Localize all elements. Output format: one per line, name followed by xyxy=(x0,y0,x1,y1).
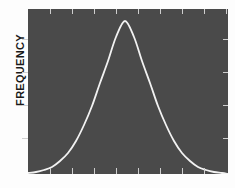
top-tick xyxy=(50,9,51,14)
top-tick xyxy=(72,9,73,14)
bottom-tick xyxy=(160,168,161,174)
right-tick xyxy=(223,72,228,73)
bottom-tick xyxy=(50,168,51,174)
top-tick xyxy=(226,9,227,14)
chart-figure: FREQUENCY xyxy=(0,0,235,188)
gaussian-curve xyxy=(28,21,228,174)
bottom-tick xyxy=(116,168,117,174)
bottom-tick xyxy=(204,168,205,174)
right-tick xyxy=(223,105,228,106)
bottom-tick xyxy=(182,168,183,174)
top-tick xyxy=(94,9,95,14)
left-tick xyxy=(22,105,28,106)
left-tick xyxy=(22,39,28,40)
bell-curve-plot xyxy=(28,9,228,174)
bottom-tick xyxy=(94,168,95,174)
top-tick xyxy=(116,9,117,14)
left-tick xyxy=(22,138,28,139)
plot-panel xyxy=(28,9,228,174)
left-tick xyxy=(22,72,28,73)
top-tick xyxy=(204,9,205,14)
top-tick xyxy=(160,9,161,14)
right-tick xyxy=(223,138,228,139)
bottom-tick xyxy=(72,168,73,174)
bottom-tick xyxy=(138,168,139,174)
top-tick xyxy=(138,9,139,14)
top-tick xyxy=(182,9,183,14)
right-tick xyxy=(223,39,228,40)
